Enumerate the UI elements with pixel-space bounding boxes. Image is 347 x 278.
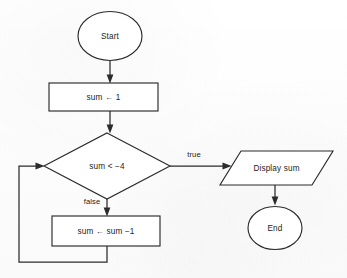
display-label: Display sum xyxy=(253,164,299,173)
edge-display-to-end xyxy=(272,185,279,206)
flowchart-svg: Start sum ← 1 sum < −4 sum ← sum −1 Disp… xyxy=(0,0,347,278)
arrow-head-icon xyxy=(104,208,111,217)
init-label: sum ← 1 xyxy=(87,93,121,102)
edge-init-to-decision xyxy=(107,111,114,134)
node-display[interactable]: Display sum xyxy=(220,151,333,185)
decrement-label: sum ← sum −1 xyxy=(77,227,134,236)
node-decision[interactable]: sum < −4 xyxy=(44,133,170,199)
node-decrement[interactable]: sum ← sum −1 xyxy=(52,216,160,246)
node-start[interactable]: Start xyxy=(78,12,142,61)
flowchart-canvas: Start sum ← 1 sum < −4 sum ← sum −1 Disp… xyxy=(0,0,347,278)
decision-label: sum < −4 xyxy=(89,162,125,171)
node-init[interactable]: sum ← 1 xyxy=(49,83,158,111)
arrow-head-icon xyxy=(107,125,114,134)
edge-label-false: false xyxy=(84,197,101,206)
edge-true-branch xyxy=(170,163,232,170)
end-label: End xyxy=(267,224,282,233)
start-label: Start xyxy=(101,32,120,41)
edge-label-true: true xyxy=(187,150,201,159)
edge-start-to-init xyxy=(107,61,114,84)
arrow-head-icon xyxy=(107,75,114,84)
node-end[interactable]: End xyxy=(248,207,302,250)
arrow-head-icon xyxy=(272,197,279,206)
